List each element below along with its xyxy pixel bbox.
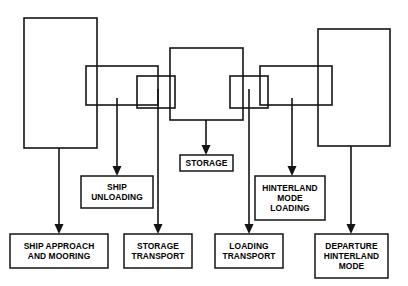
label-box-hinterland-mode-loading bbox=[255, 176, 325, 220]
connector-loading-transport bbox=[245, 89, 254, 234]
connector-storage-transport bbox=[154, 89, 163, 234]
phase-rectangles bbox=[24, 18, 390, 148]
connector-hinterland-mode-loading bbox=[288, 98, 297, 176]
connector-ship-unloading bbox=[113, 98, 122, 176]
connector-ship-approach-and-mooring bbox=[55, 148, 64, 234]
departure-phase bbox=[318, 29, 390, 146]
process-flow-diagram: SHIP APPROACH AND MOORING SHIP UNLOADING… bbox=[0, 0, 408, 286]
connector-storage bbox=[202, 120, 211, 155]
label-box-ship-unloading bbox=[81, 176, 153, 208]
connector-departure-hinterland-mode bbox=[347, 146, 356, 234]
label-box-ship-approach-and-mooring bbox=[10, 234, 108, 268]
label-box-outlines bbox=[10, 155, 388, 278]
label-box-storage-transport bbox=[124, 234, 192, 268]
label-box-storage bbox=[180, 155, 233, 171]
label-box-departure-hinterland-mode bbox=[315, 234, 388, 278]
diagram-canvas bbox=[0, 0, 408, 286]
hinterland-loading-phase bbox=[260, 66, 332, 105]
storage-phase bbox=[170, 48, 243, 120]
label-box-loading-transport bbox=[215, 234, 283, 268]
